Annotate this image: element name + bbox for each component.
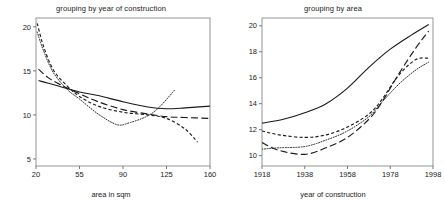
series-line-solid (262, 24, 429, 123)
panel-left-xaxis-label: area in sqm (0, 190, 222, 199)
y-tick-label: 5 (27, 155, 31, 164)
panel-grouping-by-year: grouping by year of construction 5101520… (0, 0, 222, 202)
x-tick-label: 160 (204, 170, 217, 179)
plot-frame (262, 18, 433, 166)
panel-right-xaxis-label: year of construction (222, 190, 444, 199)
y-tick-label: 12 (249, 125, 257, 134)
x-tick-label: 125 (160, 170, 173, 179)
series-line-dotted (37, 32, 175, 125)
x-tick-label: 1978 (382, 170, 399, 179)
y-tick-label: 10 (249, 151, 257, 160)
series-line-long-dash (38, 69, 210, 118)
panel-left-plot: 5101520205590125160 (0, 0, 222, 202)
y-tick-label: 15 (23, 67, 31, 76)
y-tick-label: 14 (249, 99, 257, 108)
x-tick-label: 1918 (254, 170, 271, 179)
series-line-short-dash (262, 58, 429, 138)
plot-frame (36, 18, 210, 166)
y-tick-label: 16 (249, 73, 257, 82)
y-tick-label: 18 (249, 47, 257, 56)
series-line-short-dash (37, 23, 197, 142)
x-tick-label: 1998 (425, 170, 442, 179)
series-line-solid (38, 81, 210, 109)
x-tick-label: 90 (119, 170, 127, 179)
panel-grouping-by-area: grouping by area 10121416182019181938195… (222, 0, 444, 202)
series-line-dotted (262, 62, 429, 149)
two-panel-line-chart-figure: grouping by year of construction 5101520… (0, 0, 445, 202)
x-tick-label: 55 (75, 170, 83, 179)
y-tick-label: 20 (249, 21, 257, 30)
x-tick-label: 1958 (339, 170, 356, 179)
y-tick-label: 10 (23, 111, 31, 120)
x-tick-label: 20 (32, 170, 40, 179)
x-tick-label: 1938 (296, 170, 313, 179)
y-tick-label: 20 (23, 23, 31, 32)
series-line-long-dash (262, 31, 429, 154)
panel-right-plot: 10121416182019181938195819781998 (222, 0, 444, 202)
